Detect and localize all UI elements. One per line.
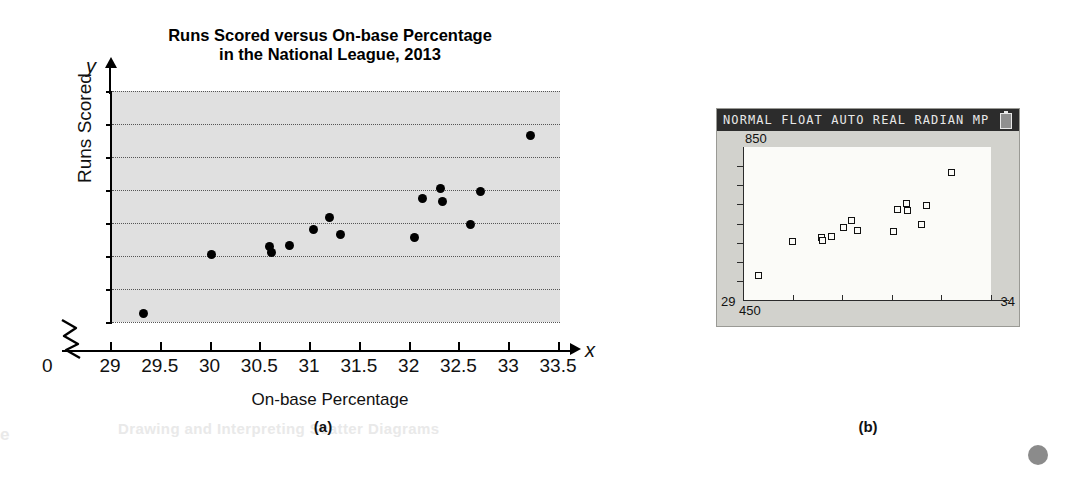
calculator-data-point <box>890 228 897 235</box>
calculator-data-point <box>918 221 925 228</box>
data-point <box>466 220 475 229</box>
chart-title-line2: in the National League, 2013 <box>150 45 510 64</box>
calculator-y-tick <box>737 243 743 244</box>
calculator-status-text: NORMAL FLOAT AUTO REAL RADIAN MP <box>717 113 989 127</box>
gridline <box>112 157 560 158</box>
y-tick <box>106 157 112 159</box>
data-point <box>336 230 345 239</box>
calculator-data-point <box>948 169 955 176</box>
plot-area: Runs Scored 500550600650700750800850 <box>110 91 560 322</box>
origin-label: 0 <box>42 355 53 377</box>
data-point <box>139 309 148 318</box>
x-tick <box>160 342 162 351</box>
x-tick <box>409 342 411 351</box>
y-tick <box>106 256 112 258</box>
x-tick <box>508 342 510 351</box>
x-tick <box>458 342 460 351</box>
page-marker-dot <box>1028 445 1048 465</box>
panel-a-caption: (a) <box>293 418 353 435</box>
y-axis-label: Runs Scored <box>74 73 96 183</box>
y-tick <box>106 124 112 126</box>
x-axis-label: On-base Percentage <box>180 390 480 410</box>
y-tick <box>106 190 112 192</box>
calculator-x-tick <box>793 295 794 301</box>
calculator-y-tick <box>737 262 743 263</box>
x-tick <box>309 342 311 351</box>
calculator-ymax-label: 850 <box>745 131 767 146</box>
gridline <box>112 256 560 257</box>
calculator-xmax-label: 34 <box>1001 294 1015 309</box>
gridline <box>112 223 560 224</box>
calculator-x-tick <box>991 295 992 301</box>
data-point <box>285 241 294 250</box>
calculator-y-axis <box>743 147 744 300</box>
x-axis-arrow <box>570 343 581 355</box>
calculator-xmin-label: 29 <box>721 294 735 309</box>
data-point <box>526 131 535 140</box>
calculator-data-point <box>854 227 861 234</box>
data-point <box>438 197 447 206</box>
calculator-status-bar: NORMAL FLOAT AUTO REAL RADIAN MP <box>717 109 1019 131</box>
calculator-y-tick <box>737 204 743 205</box>
x-tick <box>558 342 560 351</box>
data-point <box>418 194 427 203</box>
x-tick <box>110 342 112 351</box>
calculator-data-point <box>828 233 835 240</box>
data-point <box>309 225 318 234</box>
y-tick <box>106 91 112 93</box>
calculator-data-point <box>904 207 911 214</box>
calculator-data-point <box>903 200 910 207</box>
calculator-ymin-label: 450 <box>739 303 761 318</box>
y-tick <box>106 223 112 225</box>
calculator-data-point <box>819 237 826 244</box>
data-point <box>476 187 485 196</box>
y-tick <box>106 322 112 324</box>
data-point <box>207 250 216 259</box>
gridline <box>112 124 560 125</box>
calculator-y-tick <box>737 185 743 186</box>
x-tick <box>359 342 361 351</box>
calculator-x-tick <box>892 295 893 301</box>
calculator-data-point <box>789 238 796 245</box>
chart-title-line1: Runs Scored versus On-base Percentage <box>168 26 492 44</box>
calculator-y-tick <box>737 281 743 282</box>
calculator-screen: NORMAL FLOAT AUTO REAL RADIAN MP 850 29 … <box>716 108 1020 327</box>
chart-title: Runs Scored versus On-base Percentage in… <box>150 26 510 64</box>
calculator-data-point <box>923 202 930 209</box>
battery-icon <box>1000 113 1012 129</box>
gridline <box>112 322 560 323</box>
calculator-data-point <box>894 206 901 213</box>
calculator-x-axis <box>743 300 1009 301</box>
calculator-x-tick <box>842 295 843 301</box>
data-point <box>325 213 334 222</box>
x-tick-label: 33.5 <box>528 355 588 377</box>
data-point <box>436 184 445 193</box>
gridline <box>112 289 560 290</box>
calculator-data-point <box>755 272 762 279</box>
gridline <box>112 190 560 191</box>
x-tick <box>210 342 212 351</box>
x-axis-line <box>62 350 572 352</box>
data-point <box>410 233 419 242</box>
calculator-x-tick <box>941 295 942 301</box>
y-axis-arrow <box>109 66 111 94</box>
x-tick <box>259 342 261 351</box>
scatter-plot-panel: Runs Scored versus On-base Percentage in… <box>0 0 640 479</box>
gridline <box>112 91 560 92</box>
data-point <box>267 248 276 257</box>
panel-b-caption: (b) <box>838 418 898 435</box>
calculator-data-point <box>848 217 855 224</box>
calculator-y-tick <box>737 166 743 167</box>
y-tick <box>106 289 112 291</box>
calculator-data-point <box>840 224 847 231</box>
calculator-y-tick <box>737 224 743 225</box>
